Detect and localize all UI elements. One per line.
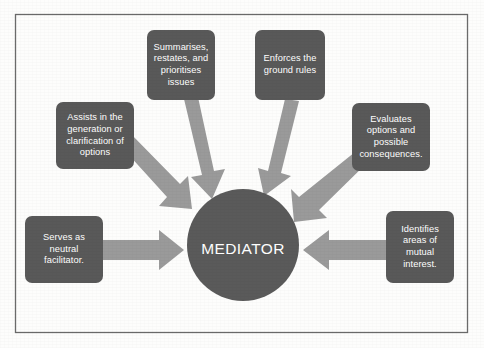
mediator-hub-label: MEDIATOR <box>201 240 285 257</box>
mediator-diagram: MEDIATOR Summarises, restates, and prior… <box>0 0 484 348</box>
node-ground-rules[interactable]: Enforces the ground rules <box>255 30 325 100</box>
node-summarises-label: Summarises, restates, and prioritises is… <box>151 42 211 88</box>
node-evaluates-options[interactable]: Evaluates options and possible consequen… <box>352 103 430 171</box>
arrow-mutual-interest-to-mediator <box>303 230 386 270</box>
arrow-facilitator-to-mediator <box>103 230 184 270</box>
arrow-ground-rules-to-mediator <box>258 99 299 196</box>
node-summarises[interactable]: Summarises, restates, and prioritises is… <box>147 30 215 100</box>
node-ground-rules-label: Enforces the ground rules <box>259 53 321 76</box>
node-options-generation[interactable]: Assists in the generation or clarificati… <box>56 102 134 169</box>
diagram-canvas: MEDIATOR <box>0 0 484 348</box>
arrow-summarises-to-mediator <box>184 97 225 199</box>
node-mutual-interest-label: Identifies areas of mutual interest. <box>390 224 450 270</box>
node-evaluates-options-label: Evaluates options and possible consequen… <box>356 114 426 160</box>
node-options-generation-label: Assists in the generation or clarificati… <box>60 112 130 158</box>
node-neutral-facilitator[interactable]: Serves as neutral facilitator. <box>25 216 103 283</box>
node-neutral-facilitator-label: Serves as neutral facilitator. <box>29 232 99 267</box>
node-mutual-interest[interactable]: Identifies areas of mutual interest. <box>386 211 454 283</box>
